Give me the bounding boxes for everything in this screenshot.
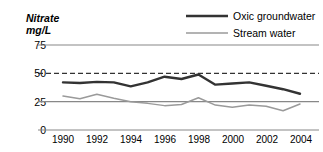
series-line-stream-water <box>63 94 300 110</box>
chart-canvas <box>0 0 323 152</box>
series-lines-group <box>63 74 300 110</box>
series-line-oxic-groundwater <box>63 74 300 93</box>
legend-swatches-group <box>186 16 228 33</box>
nitrate-trend-chart: Nitrate mg/L 75 50 25 0 1990 1992 1994 1… <box>0 0 323 152</box>
